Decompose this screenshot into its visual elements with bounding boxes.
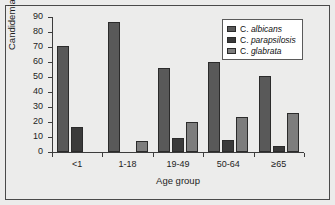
bar (57, 46, 69, 153)
y-tick-label-20: 20 (33, 115, 43, 128)
x-tick-label: ≥65 (254, 159, 304, 169)
x-tick (52, 153, 53, 157)
legend-label-albicans: C. albicans (240, 24, 282, 34)
bar (222, 140, 234, 152)
y-tick-label-60: 60 (33, 55, 43, 68)
y-tick-label-90: 90 (33, 10, 43, 23)
bar (208, 62, 220, 152)
figure: Candidemias (%) 0102030405060708090 <11-… (0, 0, 335, 205)
y-tick-label-40: 40 (33, 85, 43, 98)
bar-group (158, 17, 198, 152)
bar (136, 141, 148, 152)
y-tick-label-30: 30 (33, 100, 43, 113)
y-tick-label-70: 70 (33, 40, 43, 53)
bar-group (108, 17, 148, 152)
x-tick (102, 153, 103, 157)
legend-swatch-parapsilosis (227, 37, 236, 43)
x-tick (254, 153, 255, 157)
bar (71, 127, 83, 153)
y-tick-90: 90 (48, 17, 52, 18)
y-tick-label-10: 10 (33, 130, 43, 143)
bar-group (57, 17, 97, 152)
y-tick-60: 60 (48, 62, 52, 63)
x-axis-title: Age group (52, 175, 304, 186)
x-tick (304, 153, 305, 157)
x-tick-label: 19-49 (153, 159, 203, 169)
x-tick-label: 50-64 (203, 159, 253, 169)
legend: C. albicans C. parapsilosis C. glabrata (222, 19, 303, 60)
bar (273, 146, 285, 152)
y-tick-80: 80 (48, 32, 52, 33)
x-tick (203, 153, 204, 157)
y-tick-label-80: 80 (33, 25, 43, 38)
y-axis-line (52, 17, 53, 153)
y-tick-20: 20 (48, 122, 52, 123)
legend-swatch-glabrata (227, 48, 236, 54)
bar (287, 113, 299, 152)
y-tick-10: 10 (48, 137, 52, 138)
bar (186, 122, 198, 152)
legend-label-parapsilosis: C. parapsilosis (240, 35, 296, 45)
legend-swatch-albicans (227, 26, 236, 32)
y-tick-30: 30 (48, 107, 52, 108)
y-axis-title: Candidemias (%) (6, 0, 17, 50)
legend-item-1: C. parapsilosis (227, 34, 296, 45)
x-tick-label: <1 (52, 159, 102, 169)
bar (158, 68, 170, 152)
x-tick-label: 1-18 (102, 159, 152, 169)
y-tick-50: 50 (48, 77, 52, 78)
x-axis-line (52, 152, 304, 153)
legend-item-0: C. albicans (227, 23, 296, 34)
legend-label-glabrata: C. glabrata (240, 46, 282, 56)
bar (259, 76, 271, 153)
y-tick-40: 40 (48, 92, 52, 93)
bar (236, 117, 248, 152)
y-tick-label-50: 50 (33, 70, 43, 83)
legend-item-2: C. glabrata (227, 45, 296, 56)
y-tick-70: 70 (48, 47, 52, 48)
x-tick (153, 153, 154, 157)
bar (172, 138, 184, 152)
y-tick-label-0: 0 (38, 145, 43, 158)
bar (108, 22, 120, 153)
